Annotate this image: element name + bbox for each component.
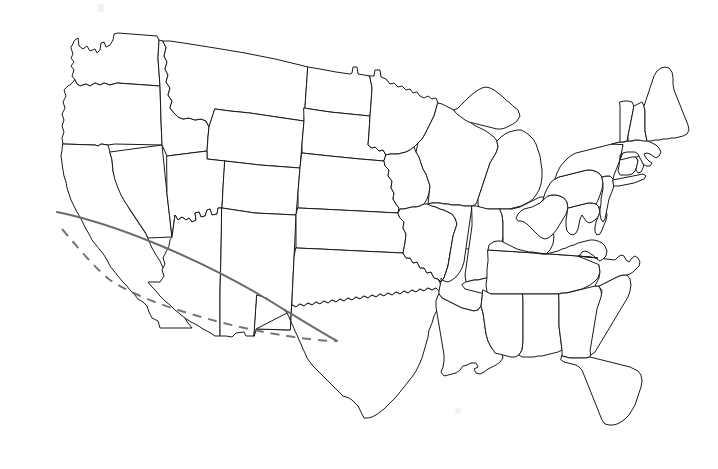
state-north-dakota[interactable] xyxy=(304,67,372,116)
state-colorado[interactable] xyxy=(222,161,300,215)
us-map-canvas[interactable] xyxy=(0,0,718,469)
state-kansas[interactable] xyxy=(296,208,406,253)
state-oregon[interactable] xyxy=(62,80,162,146)
state-alabama[interactable] xyxy=(519,294,562,357)
faint-speck-gulf xyxy=(455,408,461,414)
faint-speck-top-left xyxy=(97,4,105,12)
us-outline-map-figure: Blank outline map of the contiguous Unit… xyxy=(0,0,718,469)
